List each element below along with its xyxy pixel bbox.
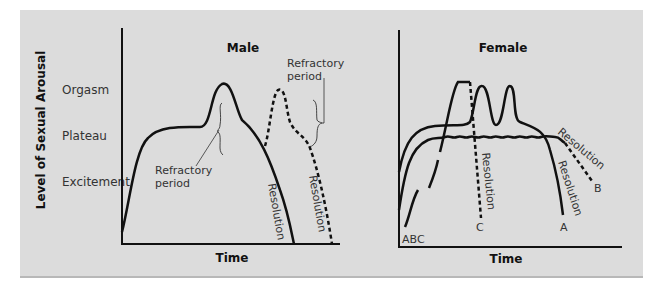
y-axis-title: Level of Sexual Arousal: [34, 51, 48, 209]
male-resolution-solid: Resolution: [265, 182, 288, 241]
female-label-c: C: [476, 221, 484, 234]
female-resolution-c: Resolution: [479, 152, 498, 211]
level-plateau: Plateau: [62, 129, 107, 143]
female-label-abc: ABC: [402, 233, 425, 246]
female-curve-c: [405, 190, 418, 227]
level-orgasm: Orgasm: [62, 83, 109, 97]
male-refractory-outer-line1: Refractory: [287, 57, 345, 70]
male-refractory-outer-line2: period: [287, 70, 322, 83]
female-chart: Female Time ABC C A B Resolution Resolut…: [398, 30, 622, 266]
male-refractory-inner-line2: period: [155, 177, 190, 190]
sexual-response-cycle-diagram: Level of Sexual Arousal Orgasm Plateau E…: [0, 0, 671, 288]
female-x-label: Time: [490, 252, 523, 266]
female-label-a: A: [560, 221, 568, 234]
male-refractory-inner-line1: Refractory: [155, 164, 213, 177]
female-label-b: B: [594, 182, 602, 195]
male-chart: Male Time Refractory period Refractory p…: [121, 28, 345, 265]
female-curve-a: [399, 86, 563, 215]
level-excitement: Excitement: [62, 175, 130, 189]
female-title: Female: [479, 41, 528, 55]
male-title: Male: [227, 41, 259, 55]
male-x-label: Time: [216, 251, 249, 265]
